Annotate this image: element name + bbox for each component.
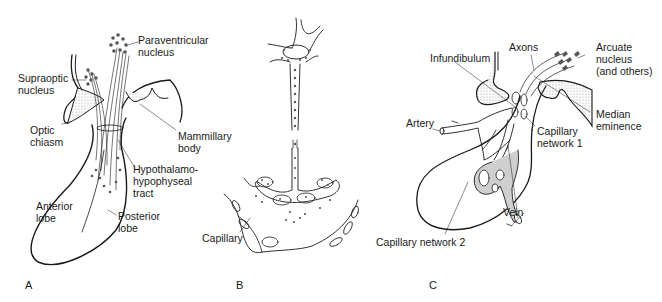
label-capillary-network-2: Capillary network 2 — [376, 236, 465, 248]
label-supraoptic-nucleus: Supraoptic nucleus — [18, 72, 68, 96]
label-capillary-network-1: Capillary network 1 — [537, 125, 583, 149]
panel-letter-a: A — [25, 279, 32, 291]
label-artery: Artery — [406, 117, 434, 129]
label-paraventricular-nucleus: Paraventricular nucleus — [138, 34, 209, 58]
label-capillary: Capillary — [202, 232, 243, 244]
label-mammillary-body: Mammillary body — [178, 130, 232, 154]
label-axons: Axons — [509, 41, 538, 53]
label-optic-chiasm: Optic chiasm — [30, 124, 63, 148]
panel-letter-c: C — [429, 279, 437, 291]
figure-drawing — [0, 0, 662, 302]
label-infundibulum: Infundibulum — [430, 52, 490, 64]
label-anterior-lobe: Anterior lobe — [36, 200, 73, 224]
panel-letter-b: B — [236, 279, 243, 291]
label-arcuate-nucleus: Arcuate nucleus (and others) — [596, 41, 653, 77]
pituitary-figure: Paraventricular nucleus Supraoptic nucle… — [0, 0, 662, 302]
label-median-eminence: Median eminence — [596, 108, 642, 132]
label-posterior-lobe: Posterior lobe — [118, 210, 160, 234]
panel-b-drawing — [224, 18, 360, 253]
label-hypothalamo-hypophyseal-tract: Hypothalamo- hypophyseal tract — [133, 163, 198, 199]
label-vein: Vein — [503, 206, 523, 218]
